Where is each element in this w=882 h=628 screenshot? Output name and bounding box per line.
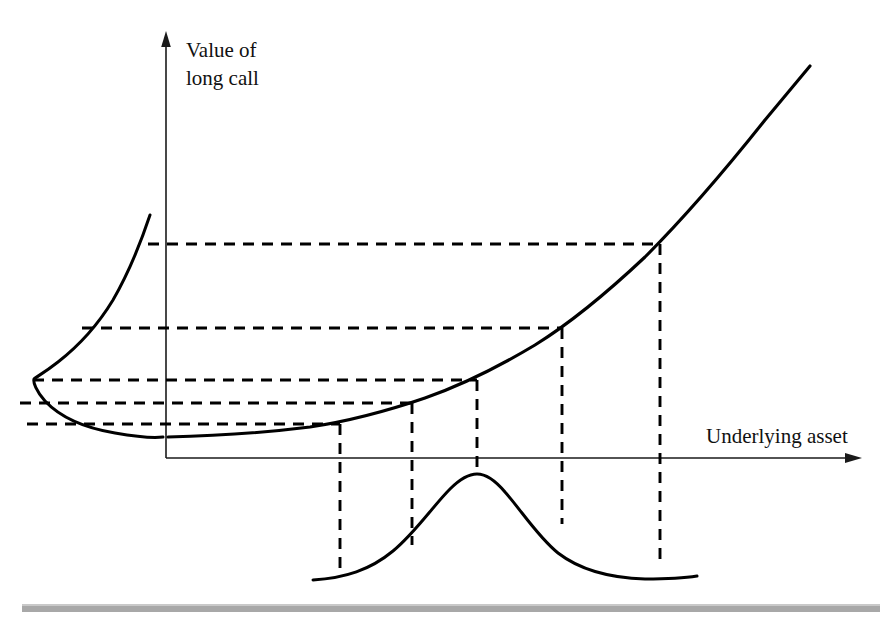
x-axis-arrow-icon <box>845 453 862 463</box>
figure-container: Value of long call Underlying asset <box>0 0 882 628</box>
axes-group <box>161 31 862 463</box>
underlying-asset-distribution-curve <box>313 474 697 580</box>
footer-rule <box>22 606 880 612</box>
footer-rule-highlight <box>22 604 880 606</box>
y-axis-label-line2: long call <box>186 66 259 90</box>
y-axis-arrow-icon <box>161 31 171 47</box>
horizontal-mapping-lines-group <box>20 244 660 424</box>
footer-rule-group <box>22 604 880 612</box>
long-call-value-diagram: Value of long call Underlying asset <box>0 0 882 628</box>
y-axis-label-line1: Value of <box>186 38 257 62</box>
x-axis-label: Underlying asset <box>706 424 848 448</box>
